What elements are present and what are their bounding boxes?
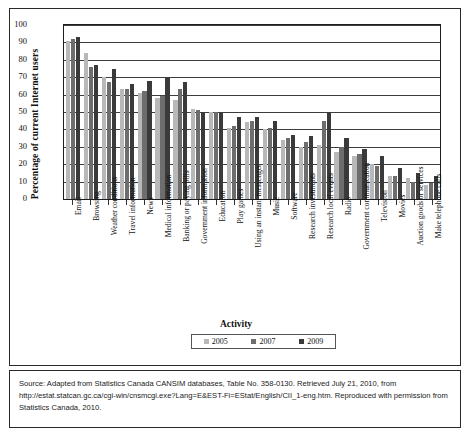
x-category-label: Make telephone calls: [435, 174, 443, 239]
x-axis-title: Activity: [10, 319, 462, 329]
bar-2005: [173, 100, 177, 199]
bar-2007: [411, 182, 415, 199]
x-label-slot: Travel information: [117, 206, 135, 314]
bar-2005: [155, 98, 159, 199]
legend-swatch-icon: [204, 339, 209, 344]
bar-2005: [245, 122, 249, 199]
legend-label: 2009: [307, 337, 323, 346]
y-tick-label: 70: [3, 72, 27, 81]
plot-area: [63, 24, 441, 200]
bar-group: [207, 25, 225, 199]
bar-group: [261, 25, 279, 199]
x-label-slot: Play games: [225, 206, 243, 314]
legend-item: 2009: [299, 337, 323, 346]
bar-group: [100, 25, 118, 199]
x-label-slot: Government information: [189, 206, 207, 314]
bar-2005: [191, 109, 195, 199]
y-tick-label: 20: [3, 159, 27, 168]
bar-series-container: [64, 25, 440, 199]
y-tick-label: 60: [3, 90, 27, 99]
bar-2009: [76, 37, 80, 199]
y-tick-label: 50: [3, 107, 27, 116]
bar-group: [386, 25, 404, 199]
legend-item: 2005: [204, 337, 228, 346]
bar-2005: [102, 77, 106, 199]
bar-2009: [147, 81, 151, 199]
x-label-slot: Education: [207, 206, 225, 314]
x-label-slot: Browsing: [81, 206, 99, 314]
y-tick-label: 80: [3, 55, 27, 64]
bar-2009: [237, 117, 241, 199]
bar-2005: [227, 128, 231, 199]
bar-group: [333, 25, 351, 199]
bar-2007: [89, 67, 93, 199]
x-label-slot: Research investments: [297, 206, 315, 314]
x-label-slot: Banking or paying bills: [171, 206, 189, 314]
x-label-slot: Medical information: [153, 206, 171, 314]
bar-2009: [273, 121, 277, 199]
source-note-box: Source: Adapted from Statistics Canada C…: [9, 370, 461, 428]
legend-swatch-icon: [251, 339, 256, 344]
x-label-slot: Weather conditions: [99, 206, 117, 314]
x-label-slot: News: [135, 206, 153, 314]
bar-group: [225, 25, 243, 199]
x-label-slot: Software: [279, 206, 297, 314]
bar-2009: [344, 138, 348, 199]
bar-2007: [429, 183, 433, 199]
x-axis-category-labels: EmailBrowsingWeather conditionsTravel in…: [63, 206, 441, 314]
y-tick-label: 90: [3, 37, 27, 46]
bar-group: [118, 25, 136, 199]
bar-2005: [209, 112, 213, 199]
bar-2007: [268, 128, 272, 199]
x-label-slot: Make telephone calls: [423, 206, 441, 314]
bar-2007: [393, 176, 397, 199]
bar-2005: [334, 152, 338, 199]
y-axis-title: Percentage of current Internet users: [30, 29, 40, 219]
bar-2007: [357, 154, 361, 199]
x-label-slot: Using an instant messenger: [243, 206, 261, 314]
figure-page: Percentage of current Internet users 100…: [0, 0, 470, 437]
bar-2005: [66, 41, 70, 199]
bar-2007: [339, 147, 343, 199]
legend-swatch-icon: [299, 339, 304, 344]
bar-2005: [138, 93, 142, 199]
y-tick-label: 100: [3, 20, 27, 29]
bar-group: [368, 25, 386, 199]
y-tick-label: 30: [3, 142, 27, 151]
chart-figure-frame: Percentage of current Internet users 100…: [9, 8, 461, 366]
plot-wrapper: Percentage of current Internet users 100…: [10, 9, 462, 367]
source-note-text: Source: Adapted from Statistics Canada C…: [19, 378, 451, 413]
bar-2005: [299, 147, 303, 199]
bar-2007: [375, 166, 379, 199]
bar-2005: [263, 129, 267, 199]
x-label-slot: Research local events: [315, 206, 333, 314]
bar-2007: [286, 138, 290, 199]
bar-group: [64, 25, 82, 199]
bar-2009: [94, 65, 98, 199]
chart-legend: 200520072009: [191, 334, 336, 349]
bar-2005: [352, 156, 356, 200]
y-tick-label: 10: [3, 177, 27, 186]
bar-2009: [291, 135, 295, 199]
bar-group: [279, 25, 297, 199]
bar-2007: [142, 91, 146, 199]
y-tick-label: 40: [3, 124, 27, 133]
bar-group: [136, 25, 154, 199]
bar-2005: [281, 140, 285, 199]
legend-label: 2007: [259, 337, 275, 346]
bar-2005: [120, 89, 124, 199]
bar-group: [154, 25, 172, 199]
bar-2005: [84, 53, 88, 199]
bar-group: [82, 25, 100, 199]
x-label-slot: Auction goods or services: [405, 206, 423, 314]
bar-2007: [71, 39, 75, 199]
legend-label: 2005: [212, 337, 228, 346]
y-tick-label: 0: [3, 194, 27, 203]
x-label-slot: Email: [63, 206, 81, 314]
bar-2005: [317, 145, 321, 199]
x-label-slot: Television: [369, 206, 387, 314]
legend-item: 2007: [251, 337, 275, 346]
bar-2007: [214, 112, 218, 199]
x-label-slot: Radio: [333, 206, 351, 314]
x-label-slot: Music: [261, 206, 279, 314]
